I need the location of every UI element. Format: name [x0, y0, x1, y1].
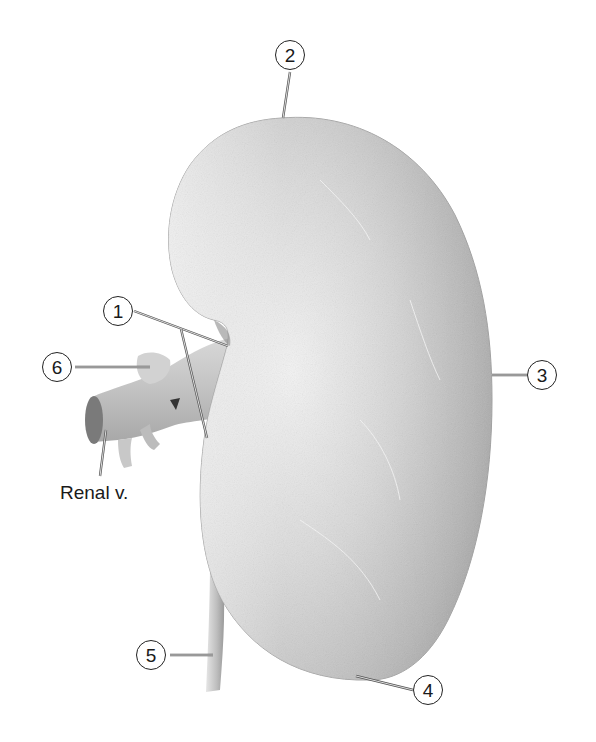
callout-6: 6 [42, 352, 72, 382]
callout-5: 5 [136, 640, 166, 670]
callout-2: 2 [275, 40, 305, 70]
callout-1: 1 [103, 296, 133, 326]
callout-4-number: 4 [423, 681, 434, 700]
callout-3-number: 3 [537, 366, 548, 385]
callout-3: 3 [527, 360, 557, 390]
callout-1-number: 1 [113, 302, 124, 321]
renal-vein-lumen [85, 396, 103, 444]
callout-6-number: 6 [52, 358, 63, 377]
callout-4: 4 [413, 675, 443, 705]
callout-5-number: 5 [146, 646, 157, 665]
callout-2-number: 2 [285, 46, 296, 65]
kidney-illustration [0, 0, 596, 742]
renal-vein-label: Renal v. [60, 482, 128, 504]
